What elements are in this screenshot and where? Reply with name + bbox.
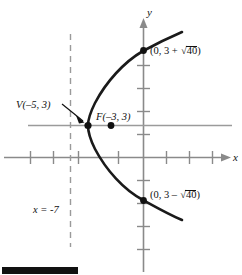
y-axis-label: y xyxy=(147,7,152,18)
sqrt-icon-upper: √40 xyxy=(180,46,197,57)
lower-intercept-prefix: (0, 3 – xyxy=(150,189,180,200)
vertex-label: V(–5, 3) xyxy=(16,100,50,111)
point-upper-intercept xyxy=(140,47,147,54)
vertex-leader-arrow xyxy=(62,104,85,124)
sqrt-icon-lower: √40 xyxy=(180,190,197,201)
graph-canvas xyxy=(0,0,242,275)
lower-intercept-label: (0, 3 – √40) xyxy=(150,190,200,201)
y-axis xyxy=(137,18,150,272)
directrix-label: x = -7 xyxy=(33,205,59,216)
parabola-figure: y x V(–5, 3) F(–3, 3) (0, 3 + √40) (0, 3… xyxy=(0,0,242,275)
focus-label-text: F(–3, 3) xyxy=(96,111,130,122)
x-axis xyxy=(4,151,231,164)
x-axis-label: x xyxy=(233,152,238,163)
page-footer-bar xyxy=(2,267,78,274)
focus-label: F(–3, 3) xyxy=(96,112,130,123)
vertex-label-text: V(–5, 3) xyxy=(16,99,50,110)
point-lower-intercept xyxy=(140,197,147,204)
directrix-label-text: x = -7 xyxy=(33,204,59,215)
upper-intercept-prefix: (0, 3 + xyxy=(150,45,180,56)
upper-intercept-suffix: ) xyxy=(197,45,201,56)
point-vertex xyxy=(84,122,91,129)
upper-intercept-label: (0, 3 + √40) xyxy=(150,46,201,57)
lower-intercept-suffix: ) xyxy=(197,189,201,200)
point-focus xyxy=(108,122,115,129)
